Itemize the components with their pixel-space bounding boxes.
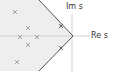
real-axis-label: Re s [91, 32, 108, 40]
imag-axis-label: Im s [66, 3, 83, 11]
